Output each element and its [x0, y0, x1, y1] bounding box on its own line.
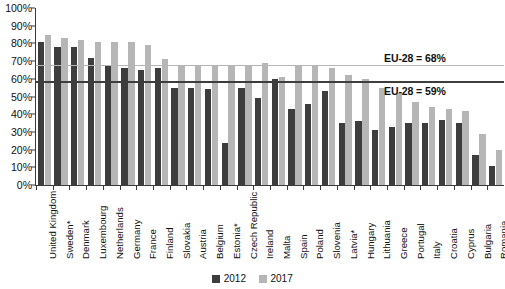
- bar-2012: [155, 68, 161, 185]
- bar-2012: [322, 91, 328, 185]
- bar-2017: [95, 42, 101, 185]
- x-tick-label: Austria: [198, 229, 208, 259]
- x-axis: United KingdomSweden*DenmarkLuxembourgNe…: [36, 189, 504, 261]
- bar-2012: [38, 42, 44, 185]
- x-tick-mark: [287, 186, 288, 190]
- legend-item-2012[interactable]: 2012: [212, 274, 246, 284]
- bar-2017: [162, 59, 168, 185]
- x-tick-mark: [186, 186, 187, 190]
- reference-line-label: EU-28 = 68%: [384, 52, 446, 64]
- bar-2012: [138, 70, 144, 185]
- y-tick-mark: [31, 149, 35, 150]
- bar-2012: [372, 130, 378, 185]
- legend-swatch-icon: [212, 275, 220, 283]
- x-tick-label: Latvia*: [349, 230, 359, 259]
- x-tick-label: Spain: [299, 234, 309, 259]
- x-tick-mark: [454, 186, 455, 190]
- x-tick-mark: [69, 186, 70, 190]
- reference-line-2012: [36, 81, 504, 83]
- y-tick-mark: [31, 8, 35, 9]
- x-tick-label: Luxembourg: [98, 206, 108, 259]
- x-tick-mark: [320, 186, 321, 190]
- bar-2012: [305, 104, 311, 185]
- bar-group: [105, 8, 118, 185]
- legend-label: 2017: [271, 274, 293, 284]
- x-tick-label: Italy: [432, 241, 442, 259]
- x-tick-mark: [487, 186, 488, 190]
- bar-group: [472, 8, 485, 185]
- y-tick-mark: [31, 78, 35, 79]
- bar-2017: [462, 111, 468, 185]
- y-tick-label: 40%: [11, 109, 32, 120]
- bar-2017: [61, 38, 67, 185]
- x-tick-mark: [253, 186, 254, 190]
- x-tick-mark: [203, 186, 204, 190]
- x-tick-label: Slovakia: [182, 223, 192, 259]
- bar-group: [71, 8, 84, 185]
- y-tick-mark: [31, 96, 35, 97]
- x-tick-label: Poland: [315, 229, 325, 259]
- bar-2017: [128, 42, 134, 185]
- x-tick-mark: [153, 186, 154, 190]
- x-tick-mark: [404, 186, 405, 190]
- bar-2017: [78, 40, 84, 185]
- x-tick-mark: [237, 186, 238, 190]
- y-tick-label: 30%: [11, 127, 32, 138]
- bar-2012: [71, 47, 77, 185]
- bar-2017: [396, 93, 402, 185]
- x-tick-mark: [86, 186, 87, 190]
- bar-2012: [88, 58, 94, 185]
- bar-group: [54, 8, 67, 185]
- bar-2012: [456, 123, 462, 185]
- x-tick-label: Hungary: [366, 223, 376, 259]
- bar-group: [188, 8, 201, 185]
- bar-2012: [272, 79, 278, 185]
- bar-group: [255, 8, 268, 185]
- bar-2012: [222, 143, 228, 185]
- bar-2012: [288, 109, 294, 185]
- chart-legend: 20122017: [0, 274, 505, 284]
- x-tick-label: Bulgaria: [483, 224, 493, 259]
- bar-group: [489, 8, 502, 185]
- bar-2017: [429, 107, 435, 185]
- bar-group: [171, 8, 184, 185]
- y-tick-label: 100%: [5, 3, 32, 14]
- bar-group: [121, 8, 134, 185]
- bar-2012: [389, 127, 395, 185]
- legend-label: 2012: [224, 274, 246, 284]
- bar-2012: [121, 68, 127, 185]
- bar-2017: [279, 77, 285, 185]
- x-tick-mark: [136, 186, 137, 190]
- x-tick-label: Lithuania: [382, 220, 392, 259]
- x-tick-label: Portugal: [416, 223, 426, 259]
- bar-group: [222, 8, 235, 185]
- bar-2012: [105, 66, 111, 185]
- y-tick-mark: [31, 131, 35, 132]
- y-tick-mark: [31, 61, 35, 62]
- x-tick-mark: [437, 186, 438, 190]
- bar-2012: [355, 121, 361, 185]
- x-tick-label: Ireland: [265, 230, 275, 259]
- bar-2017: [329, 68, 335, 185]
- legend-item-2017[interactable]: 2017: [259, 274, 293, 284]
- bar-2012: [472, 155, 478, 185]
- bar-group: [288, 8, 301, 185]
- bar-group: [138, 8, 151, 185]
- bar-2017: [412, 102, 418, 185]
- x-tick-mark: [420, 186, 421, 190]
- bar-2017: [345, 75, 351, 185]
- legend-swatch-icon: [259, 275, 267, 283]
- bar-chart: 0%10%20%30%40%50%60%70%80%90%100% United…: [0, 0, 505, 289]
- x-tick-mark: [337, 186, 338, 190]
- x-tick-label: Cyprus: [466, 229, 476, 259]
- bar-2017: [178, 66, 184, 185]
- bar-group: [456, 8, 469, 185]
- bar-2017: [111, 42, 117, 185]
- bar-2017: [379, 88, 385, 185]
- x-tick-label: France: [148, 229, 158, 259]
- x-tick-mark: [53, 186, 54, 190]
- x-tick-mark: [220, 186, 221, 190]
- x-tick-label: Malta: [282, 236, 292, 259]
- bar-2017: [312, 65, 318, 185]
- bar-group: [355, 8, 368, 185]
